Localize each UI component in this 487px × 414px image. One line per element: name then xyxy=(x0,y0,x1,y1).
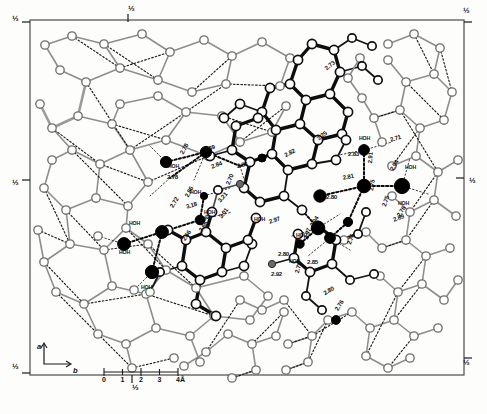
axis-indicator xyxy=(41,343,71,367)
atoms-open-light xyxy=(34,30,462,382)
structure-canvas: .b-l { stroke:#8e8e8e; stroke-width:1.6;… xyxy=(0,0,487,414)
water-network-lower-center xyxy=(184,300,312,378)
crystal-packing-figure: .b-l { stroke:#8e8e8e; stroke-width:1.6;… xyxy=(0,0,487,414)
hydrogen-bond-network-right xyxy=(286,34,452,370)
